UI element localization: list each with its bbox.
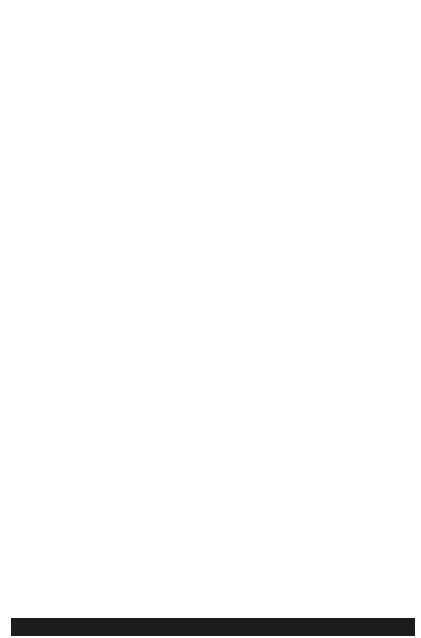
- warehouse-diagram: [0, 0, 421, 610]
- figure-caption: [11, 618, 415, 636]
